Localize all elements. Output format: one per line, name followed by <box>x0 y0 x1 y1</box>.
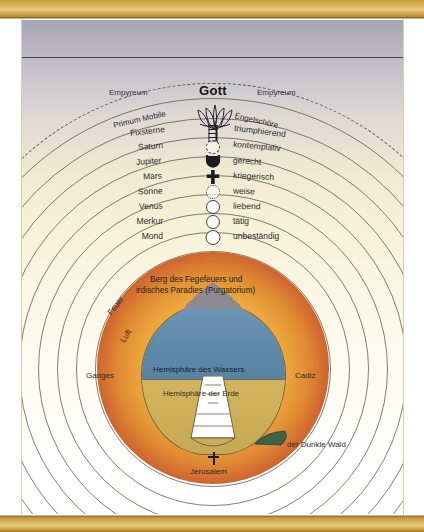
sphere-name-venus: Venus <box>139 202 163 212</box>
saturn-icon <box>206 140 220 154</box>
label-jerusalem: Jerusalem <box>190 468 227 477</box>
label-earth-hemisphere: Hemisphäre der Erde <box>163 390 239 399</box>
inferno-funnel <box>179 376 247 448</box>
jupiter-icon <box>205 154 220 167</box>
sphere-name-merkur: Merkur <box>137 217 163 226</box>
page-rule-right <box>403 19 404 515</box>
label-cadiz: Cadiz <box>295 372 315 381</box>
illustration-page: Gott Empyreum Empyreum Primum Mobile Eng… <box>0 0 424 532</box>
sphere-attribute-sonne: weise <box>233 187 255 197</box>
book-frame-bottom <box>0 516 424 532</box>
sun-disc-icon <box>206 185 220 199</box>
label-empyrean-left: Empyreum <box>109 89 148 98</box>
jerusalem-cross-icon <box>208 452 219 465</box>
dark-wood-patch <box>255 430 289 446</box>
book-frame-top <box>0 0 424 18</box>
label-purgatory-line2: irdisches Paradies (Purgatorium) <box>136 286 255 295</box>
mercury-disc-icon <box>206 215 220 229</box>
sphere-name-mond: Mond <box>142 232 163 241</box>
book-frame-top-edge <box>0 17 424 19</box>
mars-cross-icon <box>206 170 219 184</box>
label-water-hemisphere: Hemisphäre des Wassers <box>153 366 244 375</box>
label-empyrean-right: Empyreum <box>257 89 296 98</box>
label-ganges: Ganges <box>86 372 114 381</box>
venus-disc-icon <box>206 200 220 214</box>
sphere-name-sonne: Sonne <box>138 187 163 197</box>
sphere-attribute-mond: unbeständig <box>233 232 279 241</box>
dark-wood-svg <box>255 430 289 446</box>
sphere-attribute-merkur: tätig <box>233 217 249 226</box>
label-purgatory-line1: Berg des Fegefeuers und <box>150 275 242 284</box>
cosmology-diagram: Gott Empyreum Empyreum Primum Mobile Eng… <box>22 20 403 514</box>
label-dark-wood: der Dunkle Wald <box>287 441 346 450</box>
sphere-name-mars: Mars <box>143 172 162 182</box>
book-frame-bottom-edge <box>0 515 424 517</box>
sphere-name-jupiter: Jupiter <box>136 156 162 167</box>
moon-disc-icon <box>205 230 220 245</box>
inferno-funnel-svg <box>179 376 247 448</box>
mars-cross-svg <box>206 170 219 184</box>
sphere-attribute-jupiter: gerecht <box>233 156 262 167</box>
jupiter-glyph-svg <box>205 155 220 168</box>
sphere-attribute-venus: liebend <box>233 202 261 212</box>
page-title: Gott <box>199 84 227 98</box>
